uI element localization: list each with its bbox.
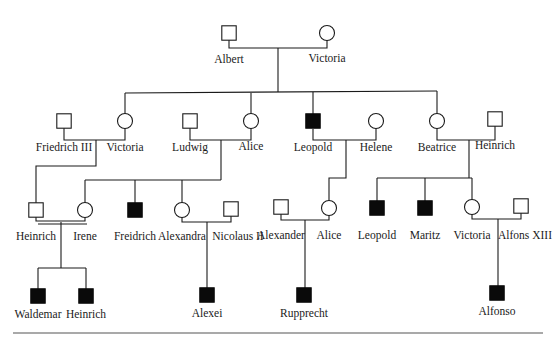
pedigree-chart: AlbertVictoriaFriedrich IIIVictoriaLudwi… — [0, 0, 558, 340]
label-maritz: Maritz — [410, 229, 441, 241]
label-heinrich_b: Heinrich — [475, 139, 515, 151]
line-couple-victoria-alfons — [472, 213, 521, 219]
label-rupprecht: Rupprecht — [280, 307, 329, 320]
label-waldemar: Waldemar — [15, 308, 62, 320]
affected-male-square-icon — [128, 203, 142, 217]
male-square-icon — [222, 26, 236, 40]
female-circle-icon — [244, 114, 259, 129]
label-freidrich: Freidrich — [114, 230, 156, 242]
label-heinrich_p: Heinrich — [16, 230, 56, 242]
label-victoria_q: Victoria — [309, 52, 346, 64]
female-circle-icon — [465, 200, 480, 215]
affected-male-square-icon — [490, 286, 504, 300]
line-couple-ludwig-alice — [190, 128, 251, 140]
affected-male-square-icon — [306, 114, 320, 128]
label-albert: Albert — [214, 53, 244, 65]
relationship-lines — [36, 40, 521, 289]
affected-male-square-icon — [418, 201, 432, 215]
label-alfonso: Alfonso — [478, 305, 515, 317]
label-alice_g: Alice — [317, 229, 342, 241]
affected-male-square-icon — [297, 288, 311, 302]
label-alexander: Alexander — [257, 229, 305, 241]
line-couple-alexander-alice — [281, 214, 329, 220]
label-friedrich3: Friedrich III — [36, 141, 93, 153]
label-alexei: Alexei — [192, 307, 223, 319]
female-circle-icon — [322, 201, 337, 216]
affected-male-square-icon — [200, 288, 214, 302]
female-circle-icon — [430, 114, 445, 129]
label-ludwig: Ludwig — [172, 141, 208, 154]
label-alice_p: Alice — [239, 140, 264, 152]
male-square-icon — [224, 202, 238, 216]
female-circle-icon — [320, 26, 335, 41]
label-victoria_p: Victoria — [107, 141, 144, 153]
label-victoria_e: Victoria — [454, 229, 491, 241]
male-square-icon — [57, 114, 71, 128]
line-sibship-gen2 — [125, 91, 437, 93]
label-leopold_p: Leopold — [294, 141, 333, 154]
line-couple-albert-victoria — [229, 40, 327, 48]
line-couple-beatrice-heinrich — [437, 126, 495, 140]
label-beatrice: Beatrice — [418, 141, 456, 153]
male-square-icon — [29, 203, 43, 217]
male-square-icon — [274, 200, 288, 214]
line-couple-alexandra-nicolaus — [182, 216, 231, 222]
label-alfons: Alfons XIII — [498, 229, 552, 241]
label-heinrich_c: Heinrich — [66, 308, 106, 320]
male-square-icon — [183, 114, 197, 128]
label-helene: Helene — [360, 141, 393, 153]
female-circle-icon — [369, 114, 384, 129]
affected-male-square-icon — [31, 289, 45, 303]
label-irene: Irene — [73, 230, 97, 242]
male-square-icon — [514, 199, 528, 213]
label-leopold_g: Leopold — [358, 229, 397, 242]
line-couple-friedrich-victoria — [64, 128, 125, 140]
female-circle-icon — [78, 203, 93, 218]
female-circle-icon — [175, 203, 190, 218]
male-square-icon — [488, 112, 502, 126]
female-circle-icon — [118, 114, 133, 129]
label-alexandra: Alexandra — [158, 230, 206, 242]
affected-male-square-icon — [370, 201, 384, 215]
line-couple-leopold-helene — [313, 128, 376, 140]
affected-male-square-icon — [79, 289, 93, 303]
